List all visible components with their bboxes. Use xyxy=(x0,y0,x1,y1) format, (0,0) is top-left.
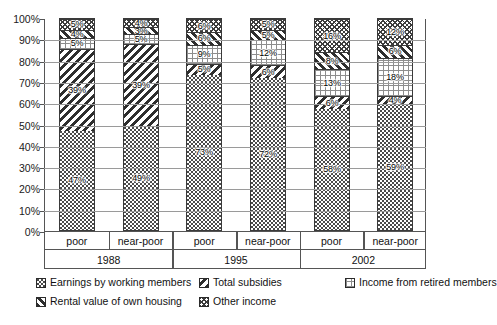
bar-segment[interactable]: 72% xyxy=(251,78,285,230)
year-label-1995: 1995 xyxy=(172,250,299,269)
bar-near-poor-1995[interactable]: 72%6%12%5%5% xyxy=(250,18,286,231)
bar-segment-label: 6% xyxy=(326,99,339,108)
y-axis-tick-label: 50% xyxy=(0,121,40,131)
legend-row: Rental value of own housingOther income xyxy=(36,296,436,310)
gridline xyxy=(44,40,426,41)
bar-segment[interactable]: 8% xyxy=(315,52,349,69)
axis-separator xyxy=(172,232,174,250)
bar-segment-label: 12% xyxy=(259,49,276,58)
bar-segment[interactable]: 49% xyxy=(124,127,158,230)
legend-item[interactable]: Earnings by working members xyxy=(36,277,191,288)
bar-segment-label: 12% xyxy=(386,28,403,37)
bar-segment-label: 18% xyxy=(386,73,403,82)
bar-segment-label: 5% xyxy=(135,35,148,44)
y-axis-tick-mark xyxy=(40,147,44,148)
bar-segment-label: 5% xyxy=(262,20,275,29)
category-axis: poornear-poorpoornear-poorpoornear-poor xyxy=(44,232,426,250)
axis-separator xyxy=(236,232,238,250)
bar-segment[interactable]: 6% xyxy=(187,32,221,45)
category-label-poor: poor xyxy=(300,232,364,250)
axis-separator xyxy=(363,232,365,250)
bar-near-poor-2002[interactable]: 59%4%18%6%12% xyxy=(377,18,413,231)
bar-segment-label: 9% xyxy=(198,50,211,59)
legend-item[interactable]: Income from retired members xyxy=(345,277,497,288)
bar-segment[interactable]: 5% xyxy=(251,30,285,41)
bar-near-poor-1988[interactable]: 49%39%5%3%4% xyxy=(123,18,159,231)
bar-segment-label: 5% xyxy=(71,20,84,29)
legend-swatch-icon xyxy=(199,297,209,307)
gridline xyxy=(44,147,426,148)
bar-segment-label: 73% xyxy=(195,148,212,157)
legend-item[interactable]: Total subsidies xyxy=(199,277,282,288)
legend-label: Earnings by working members xyxy=(50,277,191,288)
y-axis-tick-label: 80% xyxy=(0,57,40,67)
bar-segment[interactable]: 39% xyxy=(60,49,94,131)
year-label-2002: 2002 xyxy=(300,250,427,269)
legend-label: Other income xyxy=(213,296,276,307)
bar-segment-label: 39% xyxy=(132,81,149,90)
gridline xyxy=(44,104,426,105)
bar-segment[interactable]: 73% xyxy=(187,75,221,230)
gridline xyxy=(44,62,426,63)
y-axis-tick-mark xyxy=(40,19,44,20)
bar-segment-label: 16% xyxy=(323,32,340,41)
bar-segment-label: 39% xyxy=(68,86,85,95)
y-axis-tick-label: 100% xyxy=(0,14,40,24)
bar-segment[interactable]: 3% xyxy=(124,27,158,33)
bar-segment[interactable]: 39% xyxy=(124,44,158,126)
bar-segment[interactable]: 6% xyxy=(187,19,221,32)
bar-segment-label: 5% xyxy=(198,65,211,74)
bar-segment[interactable]: 6% xyxy=(315,96,349,109)
bar-poor-1988[interactable]: 47%39%5%4%5% xyxy=(59,18,95,231)
y-axis-tick-label: 70% xyxy=(0,78,40,88)
y-axis-tick-mark xyxy=(40,126,44,127)
category-label-near-poor: near-poor xyxy=(363,232,427,250)
bar-segment-label: 4% xyxy=(389,96,402,104)
y-axis-tick-label: 20% xyxy=(0,184,40,194)
gridline xyxy=(44,189,426,190)
y-axis-tick-mark xyxy=(40,104,44,105)
bar-segment[interactable]: 5% xyxy=(187,64,221,75)
bar-segment-label: 4% xyxy=(135,19,148,27)
chart-legend: Earnings by working membersTotal subsidi… xyxy=(36,277,436,315)
y-axis-tick-label: 60% xyxy=(0,99,40,109)
bar-segment-label: 4% xyxy=(71,30,84,38)
category-label-poor: poor xyxy=(45,232,109,250)
y-axis-tick-mark xyxy=(40,83,44,84)
bar-segment-label: 5% xyxy=(71,39,84,48)
bar-segment[interactable]: 9% xyxy=(187,45,221,64)
bar-segment-label: 6% xyxy=(389,47,402,56)
bar-poor-1995[interactable]: 73%5%9%6%6% xyxy=(186,18,222,231)
bar-segment-label: 5% xyxy=(262,31,275,40)
bar-segment-label: 6% xyxy=(198,22,211,31)
legend-row: Earnings by working membersTotal subsidi… xyxy=(36,277,436,291)
bar-segment[interactable]: 47% xyxy=(60,131,94,230)
bar-segment[interactable]: 4% xyxy=(60,30,94,38)
y-axis-tick-label: 10% xyxy=(0,206,40,216)
gridline xyxy=(44,168,426,169)
bar-segment-label: 8% xyxy=(326,57,339,66)
y-axis-tick-mark xyxy=(40,211,44,212)
bar-segment-label: 49% xyxy=(132,174,149,183)
axis-separator xyxy=(300,250,302,269)
legend-item[interactable]: Other income xyxy=(199,296,276,307)
bar-segment[interactable]: 5% xyxy=(60,19,94,30)
legend-item[interactable]: Rental value of own housing xyxy=(36,296,182,307)
gridline xyxy=(44,126,426,127)
bar-segment[interactable]: 6% xyxy=(251,65,285,78)
bar-segment[interactable]: 4% xyxy=(124,19,158,27)
category-label-poor: poor xyxy=(172,232,236,250)
bar-poor-2002[interactable]: 58%6%13%8%16% xyxy=(314,18,350,231)
y-axis-tick-label: 30% xyxy=(0,163,40,173)
legend-swatch-icon xyxy=(36,297,46,307)
bar-segment[interactable]: 18% xyxy=(378,58,412,96)
bar-segment[interactable]: 16% xyxy=(315,19,349,52)
bar-segment[interactable]: 6% xyxy=(378,45,412,58)
gridline xyxy=(44,83,426,84)
legend-swatch-icon xyxy=(199,278,209,288)
bar-segment[interactable]: 5% xyxy=(251,19,285,30)
legend-label: Total subsidies xyxy=(213,277,282,288)
y-axis-tick-mark xyxy=(40,62,44,63)
axis-separator xyxy=(109,232,111,250)
